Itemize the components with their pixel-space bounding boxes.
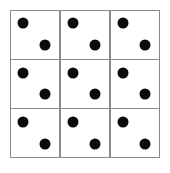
pip-dot-lower-right (139, 40, 150, 51)
pip-dot-lower-right (139, 138, 150, 149)
pip-cell-r3c3 (111, 109, 159, 157)
pip-dot-upper-left (117, 116, 128, 127)
pip-cell-r2c1 (11, 60, 59, 108)
pip-dot-lower-right (90, 89, 101, 100)
pip-cell-r1c3 (111, 11, 159, 59)
pip-dot-lower-right (90, 138, 101, 149)
pip-dot-lower-right (139, 89, 150, 100)
pip-dot-upper-left (117, 67, 128, 78)
pip-grid (10, 10, 160, 158)
pip-cell-r3c1 (11, 109, 59, 157)
pip-dot-upper-left (67, 67, 78, 78)
figure-root (0, 0, 170, 173)
pip-cell-r3c2 (61, 109, 109, 157)
pip-cell-r1c1 (11, 11, 59, 59)
pip-dot-upper-left (18, 67, 29, 78)
pip-dot-upper-left (18, 18, 29, 29)
pip-cell-r2c2 (61, 60, 109, 108)
pip-dot-lower-right (90, 40, 101, 51)
pip-cell-r2c3 (111, 60, 159, 108)
pip-dot-upper-left (18, 116, 29, 127)
pip-dot-lower-right (40, 89, 51, 100)
pip-dot-lower-right (40, 40, 51, 51)
pip-dot-upper-left (67, 18, 78, 29)
pip-dot-lower-right (40, 138, 51, 149)
pip-cell-r1c2 (61, 11, 109, 59)
pip-dot-upper-left (117, 18, 128, 29)
pip-dot-upper-left (67, 116, 78, 127)
